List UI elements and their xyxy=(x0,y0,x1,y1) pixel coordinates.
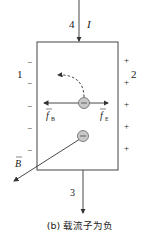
terminal-2-label: 2 xyxy=(131,68,137,80)
magnetic-field-label: B xyxy=(15,157,22,169)
plus-sign: + xyxy=(124,55,129,65)
negative-carrier xyxy=(78,131,89,142)
plus-sign: + xyxy=(124,99,129,109)
figure-caption: (b) 载流子为负 xyxy=(47,220,113,231)
minus-sign: − xyxy=(27,101,32,111)
svg-text:B: B xyxy=(51,116,55,122)
current-label: I xyxy=(86,18,92,30)
svg-text:f: f xyxy=(46,110,50,121)
terminal-4-label: 4 xyxy=(69,18,75,30)
svg-text:f: f xyxy=(100,110,104,121)
plus-sign: + xyxy=(124,143,129,153)
minus-sign: − xyxy=(27,123,32,133)
terminal-1-label: 1 xyxy=(17,68,23,80)
magnetic-field-arrow xyxy=(14,139,80,181)
electric-force-label: f E xyxy=(100,109,109,122)
negative-carrier xyxy=(79,98,90,109)
minus-sign: − xyxy=(27,78,32,88)
magnetic-force-label: f B xyxy=(46,109,55,122)
left-negative-charges: − − − − − xyxy=(27,57,32,155)
right-positive-charges: + + + + + xyxy=(124,55,129,153)
plus-sign: + xyxy=(124,77,129,87)
plus-sign: + xyxy=(124,121,129,131)
hall-effect-diagram: 4 I 3 1 2 − − − − − + + + + + f B f E xyxy=(0,0,144,239)
conductor-slab xyxy=(37,42,118,170)
minus-sign: − xyxy=(27,57,32,67)
svg-text:E: E xyxy=(105,116,109,122)
terminal-3-label: 3 xyxy=(70,187,75,198)
svg-text:B: B xyxy=(15,158,21,169)
minus-sign: − xyxy=(27,145,32,155)
deflection-path xyxy=(58,75,84,97)
